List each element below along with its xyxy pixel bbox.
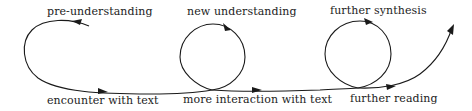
loop-new-understanding bbox=[180, 24, 245, 90]
path-further-reading bbox=[358, 28, 452, 88]
arrow-icon bbox=[223, 23, 231, 31]
loop-further-synthesis bbox=[325, 21, 391, 88]
hermeneutic-spiral-diagram: pre-understanding new understanding furt… bbox=[0, 0, 472, 111]
label-further-reading: further reading bbox=[350, 93, 438, 105]
label-pre-understanding: pre-understanding bbox=[47, 6, 153, 18]
label-more-interaction-with-text: more interaction with text bbox=[183, 94, 332, 106]
label-encounter-with-text: encounter with text bbox=[47, 95, 159, 107]
label-further-synthesis: further synthesis bbox=[330, 5, 427, 17]
label-new-understanding: new understanding bbox=[187, 6, 297, 18]
arrow-icon bbox=[72, 19, 82, 25]
arrow-icon bbox=[364, 18, 373, 25]
loop-pre-understanding bbox=[24, 20, 150, 94]
path-more-interaction bbox=[212, 88, 358, 91]
